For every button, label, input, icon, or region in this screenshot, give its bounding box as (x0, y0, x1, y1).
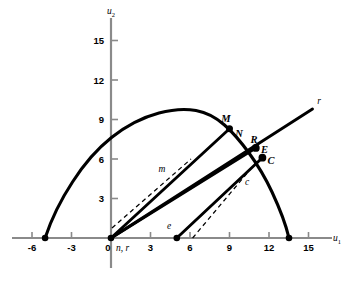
x-tick-label-12: 12 (264, 242, 275, 253)
x-tick-label-9: 9 (227, 242, 232, 253)
line-label-e: e (167, 221, 171, 231)
origin-label: n, r (116, 243, 130, 253)
line-label-r: r (317, 96, 321, 106)
endpoint-dot-origin (108, 235, 115, 242)
y-axis-title-sub: 2 (112, 11, 115, 18)
y-tick-label-12: 12 (93, 75, 104, 86)
point-label-E: E (260, 144, 268, 155)
x-tick-label-15: 15 (303, 242, 314, 253)
y-tick-label-9: 9 (99, 114, 104, 125)
x-tick-label--6: -6 (28, 242, 36, 253)
economics-frontier-plot: -6 -3 0 3 6 9 12 15 3 6 9 12 15 u1 u2 n,… (0, 0, 351, 281)
figure-container: -6 -3 0 3 6 9 12 15 3 6 9 12 15 u1 u2 n,… (0, 0, 351, 281)
x-axis-title-sub: 1 (338, 238, 341, 245)
point-dot-E (252, 144, 260, 152)
y-tick-label-6: 6 (99, 154, 104, 165)
x-tick-label-3: 3 (148, 242, 153, 253)
point-label-R: R (249, 134, 257, 145)
point-label-N: N (234, 128, 243, 139)
endpoint-dot-left-root (42, 235, 49, 242)
y-tick-label-15: 15 (93, 35, 104, 46)
endpoint-dot-e (174, 235, 181, 242)
y-axis-title: u2 (107, 6, 115, 18)
line-label-c: c (245, 177, 250, 187)
point-label-C: C (267, 155, 275, 166)
x-tick-label-6: 6 (187, 242, 192, 253)
x-tick-label-0: 0 (105, 242, 110, 253)
point-dot-M (226, 125, 233, 132)
endpoint-dot-right-root (286, 235, 293, 242)
y-tick-label-3: 3 (99, 193, 104, 204)
x-tick-label--3: -3 (67, 242, 75, 253)
axis-group (12, 18, 332, 268)
line-label-m: m (159, 164, 166, 174)
ray-c-dashed (193, 155, 263, 238)
point-label-M: M (220, 113, 231, 124)
frontier-curve (45, 109, 289, 238)
x-axis-title: u1 (333, 233, 341, 245)
